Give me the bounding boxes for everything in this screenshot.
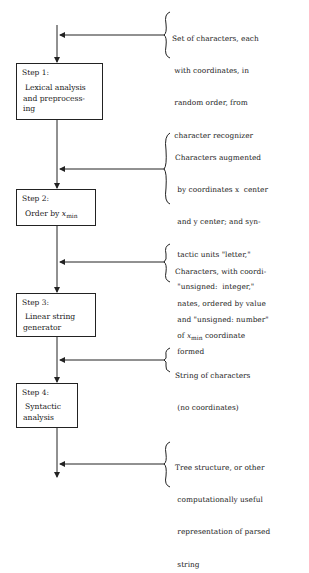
annotation-step4-line-1: Tree structure, or other <box>175 463 270 474</box>
annotation-input-line-2: with coordinates, in <box>172 66 259 77</box>
annotation-step2-line-1: Characters, with coordi- <box>175 267 266 278</box>
annotation-input-line-1: Set of characters, each <box>172 34 259 45</box>
step-2-label-text: Order by <box>25 209 62 218</box>
annotation-step2-line-3: of xmin coordinate <box>175 331 266 342</box>
step-2-label: Order by xmin <box>25 209 78 220</box>
step-1-label-line-2: and preprocess- <box>23 94 85 105</box>
step-1-label-line-3: ing <box>23 104 35 115</box>
annotation-step2-line-3-sub: min <box>191 334 202 341</box>
step-3-label-line-1: Linear string <box>25 312 75 323</box>
step-2-title: Step 2: <box>22 194 49 203</box>
step-4-box: Step 4: Syntactic analysis <box>16 383 78 428</box>
step-3-label-line-2: generator <box>23 323 61 334</box>
annotation-step3-line-2: (no coordinates) <box>175 403 250 414</box>
step-1-box: Step 1: Lexical analysis and preprocess-… <box>16 63 103 120</box>
step-4-label-line-1: Syntactic <box>25 402 61 413</box>
annotation-after-step-4: Tree structure, or other computationally… <box>175 441 270 573</box>
step-1-label-line-1: Lexical analysis <box>25 83 86 94</box>
annotation-step4-line-2: computationally useful <box>175 495 270 506</box>
annotation-after-step-3: String of characters (no coordinates) <box>175 349 250 435</box>
step-1-title: Step 1: <box>22 68 49 77</box>
annotation-step2-line-2: nates, ordered by value <box>175 299 266 310</box>
annotation-step2-line-3-prefix: of <box>175 331 187 340</box>
step-4-label-line-2: analysis <box>23 413 54 424</box>
step-2-label-sub: min <box>66 212 77 219</box>
annotation-step1-line-2: by coordinates x center <box>175 185 269 196</box>
annotation-step3-line-1: String of characters <box>175 371 250 382</box>
annotation-step1-line-3: and y center; and syn- <box>175 217 269 228</box>
annotation-step4-line-3: representation of parsed <box>175 527 270 538</box>
annotation-step4-line-4: string <box>175 560 270 571</box>
step-2-box: Step 2: Order by xmin <box>16 189 96 226</box>
step-4-title: Step 4: <box>22 388 49 397</box>
step-3-title: Step 3: <box>22 298 49 307</box>
annotation-input-line-3: random order, from <box>172 98 259 109</box>
annotation-step1-line-1: Characters augmented <box>175 153 269 164</box>
step-3-box: Step 3: Linear string generator <box>16 293 96 337</box>
annotation-after-step-2: Characters, with coordi- nates, ordered … <box>175 245 266 364</box>
annotation-step2-line-3-suffix: coordinate <box>203 331 246 340</box>
